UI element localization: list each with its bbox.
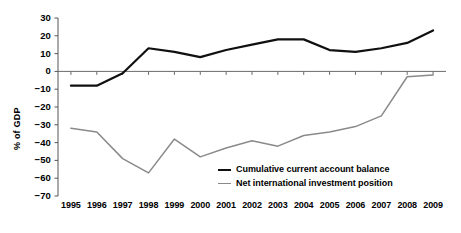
x-axis-tick-label: 2008 <box>393 200 421 210</box>
legend-swatch-cumulative-current-account-balance <box>218 169 231 171</box>
x-axis-tick-label: 1999 <box>160 200 188 210</box>
legend-label: Cumulative current account balance <box>236 163 389 176</box>
x-axis-tick-label: 2003 <box>264 200 292 210</box>
plot-area <box>0 0 461 233</box>
x-axis-tick-label: 1997 <box>109 200 137 210</box>
series-line <box>71 75 433 173</box>
chart-legend: Cumulative current account balance Net i… <box>218 163 418 193</box>
legend-swatch-net-international-investment-position <box>218 183 231 184</box>
series-line <box>71 30 433 85</box>
x-axis-tick-label: 2002 <box>238 200 266 210</box>
x-axis-tick-label: 2000 <box>186 200 214 210</box>
x-axis-tick-label: 2005 <box>316 200 344 210</box>
x-axis-tick-label: 2004 <box>290 200 318 210</box>
x-axis-tick-label: 2007 <box>367 200 395 210</box>
x-axis-tick-label: 1998 <box>135 200 163 210</box>
x-axis-tick-label: 2006 <box>341 200 369 210</box>
x-axis-tick-label: 2009 <box>419 200 447 210</box>
x-axis-tick-label: 2001 <box>212 200 240 210</box>
legend-label: Net international investment position <box>236 177 393 190</box>
chart-container: % of GDP 3020100−10−20−30−40−50−60−70 19… <box>0 0 461 233</box>
x-axis-tick-label: 1996 <box>83 200 111 210</box>
x-axis-tick-label: 1995 <box>57 200 85 210</box>
